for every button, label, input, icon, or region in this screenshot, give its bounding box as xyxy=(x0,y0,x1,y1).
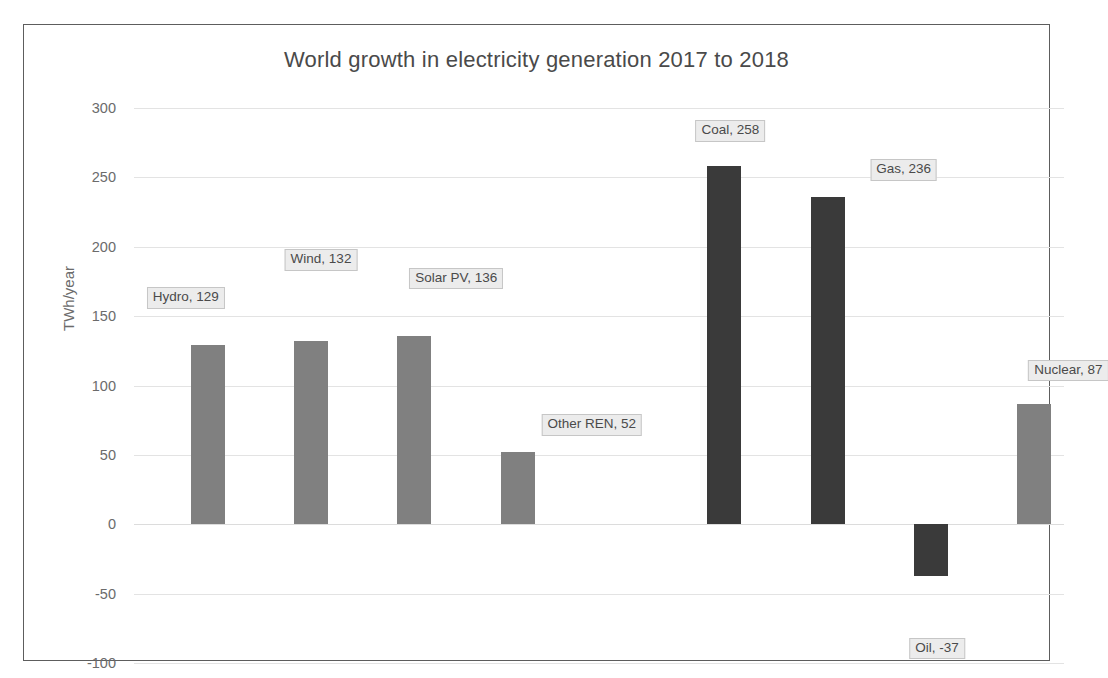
y-axis-tick-label: 250 xyxy=(92,169,116,185)
chart-frame: World growth in electricity generation 2… xyxy=(23,24,1050,661)
gridline xyxy=(134,663,1064,664)
gridline xyxy=(134,386,1064,387)
y-axis-tick-label: -50 xyxy=(95,586,116,602)
gridline xyxy=(134,594,1064,595)
gridline xyxy=(134,455,1064,456)
bar-solar-pv[interactable] xyxy=(397,336,431,525)
data-label-other-ren: Other REN, 52 xyxy=(541,414,642,436)
y-axis-tick-label: 100 xyxy=(92,378,116,394)
bar-other-ren[interactable] xyxy=(501,452,535,524)
bar-coal[interactable] xyxy=(707,166,741,524)
data-label-coal: Coal, 258 xyxy=(695,120,765,142)
y-axis-tick-label: 200 xyxy=(92,239,116,255)
chart-title: World growth in electricity generation 2… xyxy=(24,47,1049,73)
bar-nuclear[interactable] xyxy=(1017,404,1051,525)
y-axis-tick-labels: 300250200150100500-50-100 xyxy=(24,108,124,663)
y-axis-tick-label: 150 xyxy=(92,308,116,324)
gridline xyxy=(134,247,1064,248)
y-axis-tick-label: 300 xyxy=(92,100,116,116)
gridline xyxy=(134,108,1064,109)
y-axis-tick-label: -100 xyxy=(87,655,116,671)
plot-area xyxy=(134,108,1064,663)
data-label-solar-pv: Solar PV, 136 xyxy=(409,268,503,290)
data-label-oil: Oil, -37 xyxy=(909,638,965,660)
bar-oil[interactable] xyxy=(914,524,948,575)
data-label-gas: Gas, 236 xyxy=(870,159,937,181)
y-axis-tick-label: 50 xyxy=(100,447,116,463)
data-label-wind: Wind, 132 xyxy=(285,249,358,271)
bar-hydro[interactable] xyxy=(191,345,225,524)
y-axis-tick-label: 0 xyxy=(108,516,116,532)
bar-wind[interactable] xyxy=(294,341,328,524)
data-label-nuclear: Nuclear, 87 xyxy=(1028,360,1108,382)
bar-gas[interactable] xyxy=(811,197,845,524)
gridline xyxy=(134,316,1064,317)
data-label-hydro: Hydro, 129 xyxy=(147,287,225,309)
